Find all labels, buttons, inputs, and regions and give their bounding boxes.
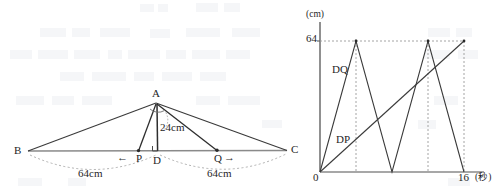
q-direction-arrow: → <box>224 152 235 163</box>
series-label-DP: DP <box>336 134 350 145</box>
x-axis-unit-label: (秒) <box>475 173 491 183</box>
series-DQ-peak2-dot <box>427 40 430 43</box>
segment-AD-altitude <box>157 104 158 151</box>
vertex-label-B: B <box>14 145 21 156</box>
x-tick-label-16: 16 <box>458 172 469 183</box>
triangle-diagram-canvas <box>0 0 300 192</box>
span-label-right-64cm: 64cm <box>207 168 231 179</box>
height-label-24cm: 24cm <box>160 122 184 133</box>
series-label-DQ: DQ <box>332 64 348 75</box>
graph-canvas <box>298 0 498 192</box>
series-DP-end-dot <box>463 40 466 43</box>
y-tick-label-64: 64 <box>306 33 317 44</box>
vertex-label-A: A <box>152 88 160 99</box>
y-axis-unit-label: (cm) <box>306 10 324 20</box>
series-DP-line <box>320 41 464 172</box>
vertex-label-Q: Q <box>214 153 222 164</box>
span-label-left-64cm: 64cm <box>78 168 102 179</box>
worksheet-figure-page: A B C D P Q ← → 24cm 64cm 64cm <box>0 0 498 192</box>
vertex-label-D: D <box>153 155 161 166</box>
p-direction-arrow: ← <box>117 152 128 163</box>
origin-label: 0 <box>313 172 319 183</box>
series-DQ-peak1-dot <box>355 40 358 43</box>
scan-artifacts <box>10 3 282 186</box>
vertex-label-P: P <box>136 153 142 164</box>
graph-scan-artifacts <box>418 28 478 186</box>
segment-BA <box>28 103 156 151</box>
